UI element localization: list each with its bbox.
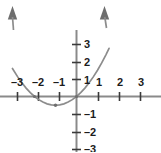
y-tick-label-2: 2	[84, 57, 90, 68]
x-tick-label-1: 1	[96, 77, 102, 88]
curve-left-arm-stem	[13, 17, 14, 30]
plot-background	[0, 0, 161, 152]
y-tick-label-1: 1	[84, 75, 90, 86]
x-tick-label-2: 2	[117, 77, 123, 88]
x-tick-label-neg3: –3	[11, 77, 23, 88]
x-intercept-left-point	[33, 95, 36, 98]
x-tick-label-3: 3	[138, 77, 144, 88]
y-tick-label-3: 3	[84, 39, 90, 50]
x-tick-label-neg2: –2	[32, 77, 44, 88]
y-tick-label-neg3: –3	[84, 144, 96, 153]
vertex-point	[54, 104, 57, 107]
graph-canvas: –3 –2 –1 1 2 3 3 2 1 –1 –2 –3	[0, 0, 161, 152]
x-tick-label-neg1: –1	[53, 77, 65, 88]
origin-intercept-point	[75, 95, 78, 98]
y-tick-label-neg1: –1	[84, 109, 96, 120]
y-tick-label-neg2: –2	[84, 127, 96, 138]
coordinate-plane-svg	[0, 0, 161, 152]
